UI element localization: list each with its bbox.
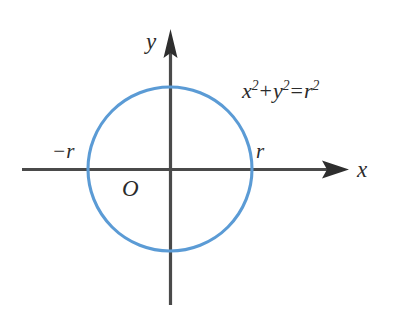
- equation-x-exponent: 2: [252, 78, 259, 93]
- equation-r-base: r: [304, 78, 313, 103]
- y-axis-label: y: [146, 30, 156, 53]
- equation-x-base: x: [242, 78, 252, 103]
- x-tick-label-positive-r: r: [256, 141, 264, 162]
- x-tick-label-negative-r: −r: [52, 141, 74, 162]
- equation-y-exponent: 2: [283, 78, 290, 93]
- equation-r-exponent: 2: [313, 78, 320, 93]
- origin-label: O: [122, 177, 139, 200]
- x-axis-label: x: [357, 158, 367, 181]
- equation-equals-operator: =: [290, 78, 304, 103]
- circle-equation-label: x2+y2=r2: [242, 80, 319, 102]
- equation-plus-operator: +: [259, 78, 273, 103]
- circle-equation-figure: y x O −r r x2+y2=r2: [0, 0, 395, 313]
- equation-y-base: y: [273, 78, 283, 103]
